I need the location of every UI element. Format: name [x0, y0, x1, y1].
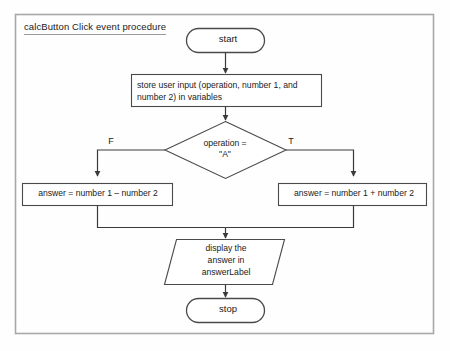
- false-process-shape: [23, 184, 173, 206]
- decision-shape: [165, 122, 286, 179]
- procedure-title: calcButton Click event procedure: [24, 21, 166, 35]
- flowchart-canvas: calcButton Click event procedure start s…: [0, 0, 450, 351]
- true-process-shape: [279, 184, 427, 206]
- connector-true-merge: [226, 206, 354, 228]
- start-terminator-shape: [187, 29, 265, 53]
- flowchart-graphics: [0, 0, 450, 351]
- stop-terminator-shape: [187, 299, 265, 323]
- connector-false-merge: [98, 206, 226, 228]
- connector-true-branch: [286, 150, 354, 176]
- display-output-shape: [165, 240, 285, 285]
- connector-false-branch: [98, 150, 166, 176]
- store-input-shape: [132, 75, 322, 107]
